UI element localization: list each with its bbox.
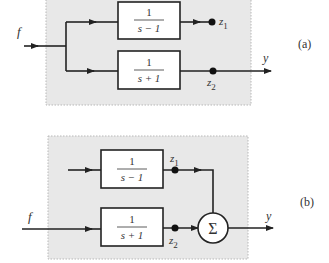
block-numerator: 1 <box>129 155 135 167</box>
output-label-b: y <box>265 209 272 223</box>
figure-label-b: (b) <box>300 195 314 209</box>
block-denominator: s − 1 <box>121 171 144 183</box>
node-z1-a <box>209 19 216 26</box>
node-z2-a <box>210 68 217 75</box>
block-denominator: s + 1 <box>121 229 144 241</box>
figure-label-a: (a) <box>298 37 311 51</box>
transfer-block-b1: 1 s − 1 <box>101 150 163 188</box>
block-numerator: 1 <box>146 56 152 68</box>
transfer-block-a1: 1 s − 1 <box>118 2 180 39</box>
node-z2-b <box>172 225 179 232</box>
summing-junction: Σ <box>198 213 228 243</box>
input-label-b: f <box>28 209 34 224</box>
block-numerator: 1 <box>146 6 152 18</box>
transfer-block-a2: 1 s + 1 <box>118 51 180 89</box>
block-denominator: s − 1 <box>138 22 161 34</box>
diagram-b: f 1 s − 1 1 s + 1 z1 z2 Σ <box>22 136 314 259</box>
transfer-block-b2: 1 s + 1 <box>101 208 163 246</box>
input-label-a: f <box>17 24 23 39</box>
block-numerator: 1 <box>129 213 135 225</box>
block-diagrams: f 1 s − 1 1 s + 1 z1 z2 <box>0 0 329 263</box>
sigma-icon: Σ <box>208 220 217 237</box>
diagram-a: f 1 s − 1 1 s + 1 z1 z2 <box>17 0 311 105</box>
output-label-a: y <box>262 51 269 65</box>
block-denominator: s + 1 <box>138 72 161 84</box>
